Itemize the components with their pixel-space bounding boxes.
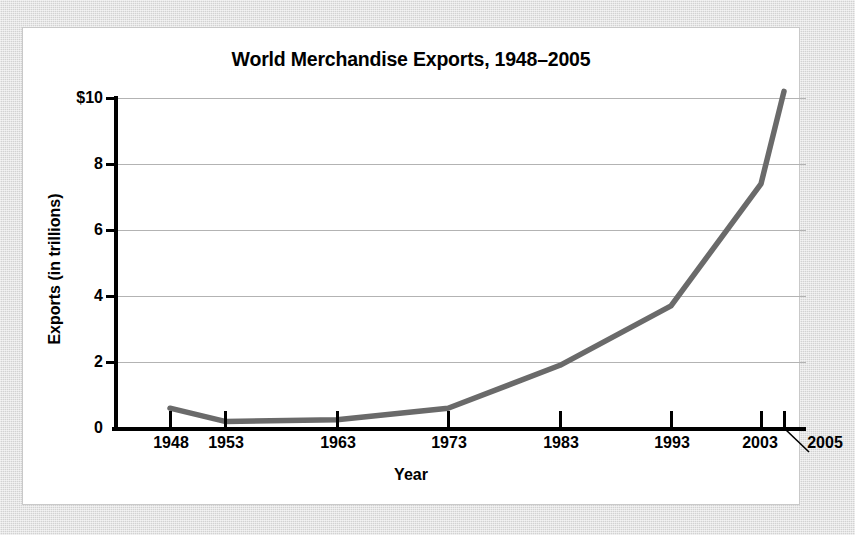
figure-card: World Merchandise Exports, 1948–2005 Exp… [22,27,800,505]
leader-line-2005-icon [23,28,801,506]
x-tick-label-2005: 2005 [807,434,843,452]
